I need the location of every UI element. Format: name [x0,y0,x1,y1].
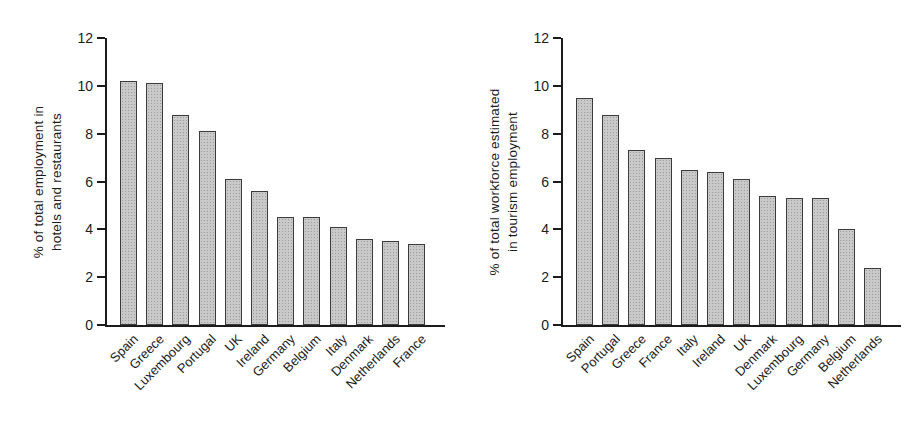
plot-area: 024681012SpainPortugalGreeceFranceItalyI… [561,38,901,327]
bar-france [655,158,672,325]
y-axis-tick-label: 8 [515,127,549,141]
y-axis-tick [97,37,105,39]
bar-belgium [303,217,320,325]
y-axis-title-line-1: % of total workforce estimated [486,38,504,325]
y-axis-tick [97,228,105,230]
bar-germany [277,217,294,325]
y-axis-tick [553,324,561,326]
y-axis-tick-label: 10 [515,79,549,93]
bar-luxembourg [172,115,189,325]
hotels-restaurants-chart: % of total employment in hotels and rest… [0,0,456,425]
y-axis-tick [553,37,561,39]
y-axis-tick-label: 8 [59,127,93,141]
y-axis-title-line-1: % of total employment in [30,38,48,325]
y-axis-tick-label: 2 [515,270,549,284]
y-axis-tick-label: 0 [59,318,93,332]
y-axis-tick-label: 6 [59,175,93,189]
y-axis-tick-label: 12 [59,31,93,45]
bar-portugal [199,131,216,325]
y-axis-tick [97,133,105,135]
bar-france [408,244,425,325]
y-axis-tick [97,85,105,87]
y-axis-tick-label: 0 [515,318,549,332]
bar-germany [812,198,829,325]
y-axis-tick-label: 2 [59,270,93,284]
y-axis-tick-label: 12 [515,31,549,45]
y-axis-tick-label: 4 [515,222,549,236]
y-axis-tick [553,85,561,87]
y-axis-tick [97,276,105,278]
y-axis-tick [553,133,561,135]
y-axis-tick [553,276,561,278]
bar-greece [146,83,163,325]
y-axis-tick-label: 6 [515,175,549,189]
bar-spain [120,81,137,325]
y-axis-tick [553,228,561,230]
bar-portugal [602,115,619,325]
bar-uk [225,179,242,325]
bar-denmark [356,239,373,325]
y-axis-tick-label: 4 [59,222,93,236]
y-axis-tick [553,181,561,183]
bar-netherlands [864,268,881,325]
bar-spain [576,98,593,325]
y-axis-tick [97,324,105,326]
bar-italy [681,170,698,325]
bar-denmark [759,196,776,325]
bar-italy [330,227,347,325]
bar-belgium [838,229,855,325]
bar-netherlands [382,241,399,325]
bar-ireland [251,191,268,325]
y-axis-tick [97,181,105,183]
tourism-employment-chart: % of total workforce estimated in touris… [456,0,912,425]
bar-greece [628,150,645,325]
bar-luxembourg [786,198,803,325]
bar-uk [733,179,750,325]
plot-area: 024681012SpainGreeceLuxembourgPortugalUK… [105,38,445,327]
y-axis-tick-label: 10 [59,79,93,93]
figure: % of total employment in hotels and rest… [0,0,912,425]
bar-ireland [707,172,724,325]
